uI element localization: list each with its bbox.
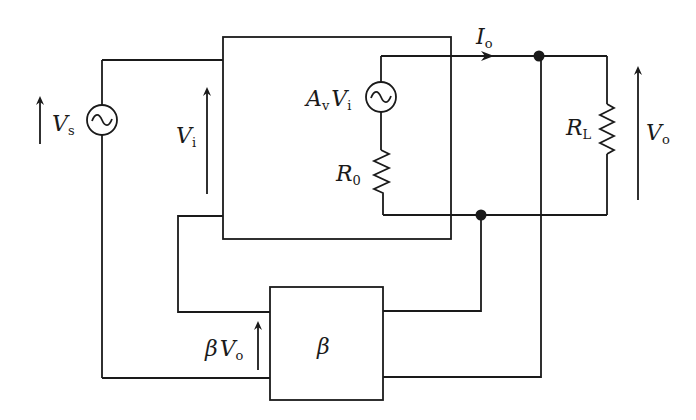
- feedback-amplifier-diagram: Vs Vi AvVi R0 Io RL Vo β βVo: [0, 0, 696, 420]
- amplifier-block: [223, 37, 451, 239]
- vi-label: Vi: [176, 123, 196, 150]
- rl-label: RL: [565, 115, 592, 142]
- avvi-label: AvVi: [304, 86, 351, 113]
- ac-wave-icon: [371, 92, 391, 102]
- beta-vo-label: βVo: [204, 336, 244, 363]
- ac-wave-icon: [92, 115, 112, 125]
- r0-label: R0: [335, 161, 361, 188]
- vs-label: Vs: [52, 111, 75, 138]
- input-voltage-source: [87, 60, 223, 378]
- dependent-voltage-source: [366, 56, 396, 150]
- beta-block-label: β: [316, 334, 330, 359]
- junction-dot-top: [534, 51, 545, 62]
- feedback-sense-wire-upper: [383, 56, 541, 377]
- io-label: Io: [475, 24, 493, 51]
- load-resistor-rl: [600, 56, 614, 215]
- output-resistor-r0: [374, 150, 389, 215]
- feedback-sense-wire-lower: [383, 215, 481, 311]
- amp-input-return-wire: [178, 216, 270, 312]
- vo-label: Vo: [646, 120, 670, 147]
